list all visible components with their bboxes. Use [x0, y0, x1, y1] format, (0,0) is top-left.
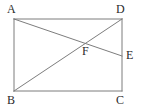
- vertex-label-B: B: [7, 94, 15, 106]
- geometry-figure: A D B C E F: [0, 0, 141, 110]
- vertex-label-F: F: [82, 45, 89, 57]
- vertex-label-D: D: [116, 3, 125, 15]
- vertex-label-A: A: [7, 3, 16, 15]
- segment-AE-line: [14, 19, 122, 56]
- vertex-label-C: C: [116, 94, 124, 106]
- diagonal-BD-line: [14, 19, 122, 91]
- vertex-label-E: E: [126, 49, 133, 61]
